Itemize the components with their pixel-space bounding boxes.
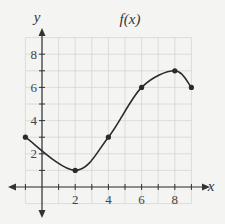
y-tick-label: 4	[31, 113, 38, 128]
y-axis-down-arrow-icon	[39, 210, 46, 218]
axes	[8, 28, 210, 218]
x-tick-label: 6	[138, 192, 145, 207]
y-tick-label: 6	[31, 80, 38, 95]
y-axis-label: y	[32, 9, 41, 25]
x-tick-label: 8	[172, 192, 179, 207]
data-point	[106, 135, 111, 140]
y-tick-label: 8	[31, 47, 38, 62]
y-axis-up-arrow-icon	[39, 28, 46, 36]
data-point	[139, 85, 144, 90]
grid-lines	[25, 38, 191, 204]
x-tick-label: 2	[72, 192, 79, 207]
x-axis-left-arrow-icon	[8, 184, 16, 191]
data-point	[23, 135, 28, 140]
y-tick-label: 2	[31, 146, 38, 161]
data-point	[172, 68, 177, 73]
data-point	[73, 168, 78, 173]
data-point	[189, 85, 194, 90]
chart-title: f(x)	[120, 11, 141, 28]
x-axis-label: x	[207, 178, 215, 194]
function-graph: 24682468 f(x) y x	[0, 0, 225, 224]
x-tick-label: 4	[105, 192, 112, 207]
